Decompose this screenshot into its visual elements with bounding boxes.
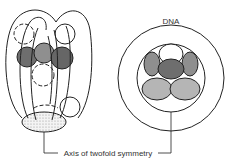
histone-right-bottom xyxy=(60,97,80,117)
histone-right-top xyxy=(55,24,75,44)
histone-right-gray xyxy=(182,52,198,76)
side-view xyxy=(6,10,92,132)
axis-line-right xyxy=(158,112,171,153)
nucleosome-diagram: DNA Axis of twofold symmetry xyxy=(0,0,228,167)
histone-center-dark xyxy=(158,59,184,79)
axis-line-left xyxy=(44,132,58,153)
histone-back-mid xyxy=(32,64,54,86)
axis-label: Axis of twofold symmetry xyxy=(64,149,152,158)
histone-bottom-right xyxy=(170,78,200,100)
stippled-base xyxy=(22,112,66,132)
histone-bottom-left xyxy=(142,78,172,100)
histone-left-gray xyxy=(144,52,160,76)
dna-label: DNA xyxy=(163,17,181,26)
